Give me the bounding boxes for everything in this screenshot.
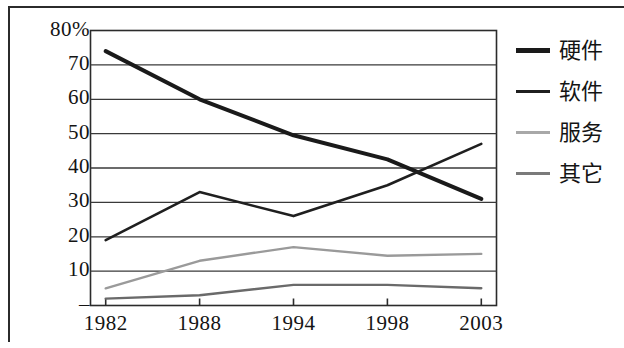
legend-label: 服务 bbox=[559, 122, 603, 144]
legend-item[interactable]: 其它 bbox=[516, 153, 620, 194]
x-axis-tick-label: 1988 bbox=[178, 312, 222, 334]
y-axis-tick-label: 70 bbox=[22, 53, 90, 74]
y-axis-tick-label: 20 bbox=[22, 225, 90, 246]
legend-item[interactable]: 服务 bbox=[516, 112, 620, 153]
y-axis-tick-label: 80% bbox=[22, 19, 90, 40]
legend-line-swatch bbox=[516, 172, 550, 175]
legend-label: 其它 bbox=[559, 163, 603, 185]
legend-line-swatch bbox=[516, 90, 550, 93]
x-axis: 19821988199419982003 bbox=[0, 312, 624, 342]
x-axis-tick-label: 1998 bbox=[365, 312, 409, 334]
chart-legend: 硬件软件服务其它 bbox=[516, 30, 620, 194]
x-axis-tick-label: 1994 bbox=[272, 312, 316, 334]
legend-line-swatch bbox=[516, 48, 550, 53]
y-axis-tick-label: 60 bbox=[22, 87, 90, 108]
y-axis-tick-label: 40 bbox=[22, 156, 90, 177]
y-axis: 80%70605040302010– bbox=[18, 0, 90, 348]
y-axis-tick-label: 30 bbox=[22, 190, 90, 211]
x-axis-tick-label: 2003 bbox=[459, 312, 503, 334]
figure-container: 80%70605040302010– 19821988199419982003 … bbox=[0, 0, 624, 348]
y-axis-tick-label: 50 bbox=[22, 122, 90, 143]
legend-label: 软件 bbox=[559, 81, 603, 103]
y-axis-tick-label: 10 bbox=[22, 259, 90, 280]
legend-label: 硬件 bbox=[559, 40, 603, 62]
x-axis-tick-label: 1982 bbox=[84, 312, 128, 334]
legend-item[interactable]: 硬件 bbox=[516, 30, 620, 71]
legend-item[interactable]: 软件 bbox=[516, 71, 620, 112]
legend-line-swatch bbox=[516, 131, 550, 134]
